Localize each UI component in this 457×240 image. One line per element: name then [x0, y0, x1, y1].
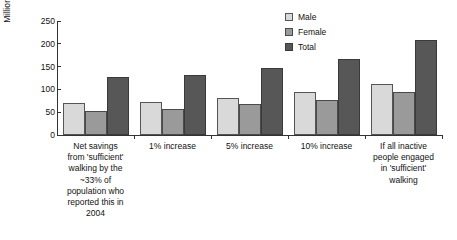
bar-female[interactable]: [162, 109, 184, 135]
x-axis-category-label: Net savingsfrom 'sufficient'walking by t…: [53, 141, 138, 219]
x-axis-group-separator: [134, 135, 135, 139]
bar-male[interactable]: [294, 92, 316, 135]
x-axis-category-label-line: 1% increase: [130, 141, 215, 152]
x-axis-group-separator: [442, 135, 443, 139]
x-axis-category-label-line: walking by the: [53, 163, 138, 174]
x-axis-category-label: If all inactivepeople engagedin 'suffici…: [361, 141, 446, 186]
bar-total[interactable]: [107, 77, 129, 135]
bar-group-bars: [365, 21, 442, 135]
x-axis-line: [57, 135, 442, 136]
x-axis-category-label-line: reported this in: [53, 197, 138, 208]
x-axis-group-separator: [211, 135, 212, 139]
x-axis-category-label: 10% increase: [284, 141, 369, 152]
bar-group-bars: [57, 21, 134, 135]
bar-male[interactable]: [371, 84, 393, 135]
x-axis-category-label-line: Net savings: [53, 141, 138, 152]
bar-male[interactable]: [63, 103, 85, 135]
x-axis-category-label: 5% increase: [207, 141, 292, 152]
bar-group: [134, 21, 211, 135]
bar-male[interactable]: [217, 98, 239, 135]
legend-item-male[interactable]: Male: [285, 10, 375, 23]
legend-swatch-icon: [285, 28, 293, 36]
bar-chart-figure: Million AU$ 050100150200250 Net savingsf…: [0, 0, 457, 240]
legend-swatch-icon: [285, 13, 293, 21]
y-axis-tick: 250: [17, 16, 61, 26]
y-axis-tick: 0: [17, 130, 61, 140]
bar-female[interactable]: [316, 100, 338, 135]
bar-total[interactable]: [338, 59, 360, 135]
bar-group: [365, 21, 442, 135]
bar-group: [57, 21, 134, 135]
x-axis-group-separator: [365, 135, 366, 139]
x-axis-category-label-line: from 'sufficient': [53, 152, 138, 163]
y-axis-tick: 100: [17, 84, 61, 94]
bar-female[interactable]: [393, 92, 415, 135]
x-axis-category-label-line: 10% increase: [284, 141, 369, 152]
x-axis-category-label-line: 2004: [53, 208, 138, 219]
x-axis-category-label-line: people engaged: [361, 152, 446, 163]
plot-area: 050100150200250: [57, 21, 442, 135]
y-axis-tick-label: 100: [41, 84, 55, 94]
x-axis-category-label-line: in 'sufficient': [361, 163, 446, 174]
bar-group: [211, 21, 288, 135]
bar-female[interactable]: [239, 104, 261, 135]
x-axis-category-label: 1% increase: [130, 141, 215, 152]
y-axis-tick-label: 0: [50, 130, 55, 140]
chart-legend: MaleFemaleTotal: [285, 10, 375, 55]
legend-item-female[interactable]: Female: [285, 25, 375, 38]
x-axis-category-label-line: ~33% of: [53, 175, 138, 186]
bar-group-bars: [134, 21, 211, 135]
y-axis-tick: 50: [17, 107, 61, 117]
bar-total[interactable]: [261, 68, 283, 135]
y-axis-tick-label: 200: [41, 39, 55, 49]
y-axis-tick-label: 250: [41, 16, 55, 26]
bar-total[interactable]: [415, 40, 437, 135]
y-axis-tick: 200: [17, 39, 61, 49]
legend-item-label: Male: [298, 12, 316, 22]
x-axis-category-label-line: 5% increase: [207, 141, 292, 152]
bar-male[interactable]: [140, 102, 162, 135]
bar-group-bars: [211, 21, 288, 135]
y-axis-tick-label: 50: [46, 107, 55, 117]
x-axis-category-label-line: If all inactive: [361, 141, 446, 152]
legend-swatch-icon: [285, 43, 293, 51]
x-axis-category-label-line: walking: [361, 175, 446, 186]
legend-item-label: Total: [298, 42, 316, 52]
y-axis-tick: 150: [17, 62, 61, 72]
y-axis-tick-label: 150: [41, 62, 55, 72]
legend-item-label: Female: [298, 27, 326, 37]
bar-total[interactable]: [184, 75, 206, 135]
bar-female[interactable]: [85, 111, 107, 135]
x-axis-group-separator: [288, 135, 289, 139]
legend-item-total[interactable]: Total: [285, 40, 375, 53]
x-axis-category-label-line: population who: [53, 186, 138, 197]
